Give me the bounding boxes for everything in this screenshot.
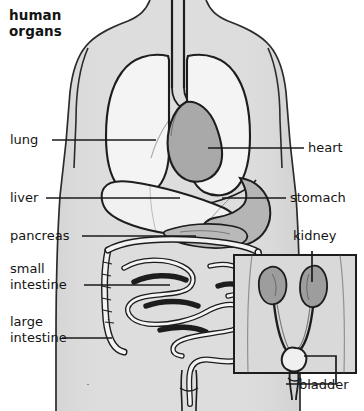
human-organs-illustration [0, 0, 364, 411]
figure-title: human organs [9, 7, 62, 39]
kidney-right-shape [300, 266, 327, 307]
bladder-shape [282, 348, 307, 372]
label-large-intestine: large intestine [10, 314, 67, 345]
label-liver: liver [10, 190, 38, 206]
label-heart: heart [308, 140, 343, 156]
label-stomach: stomach [290, 190, 346, 206]
label-small-intestine: small intestine [10, 261, 67, 292]
label-kidney: kidney [293, 228, 336, 244]
label-lung: lung [10, 132, 38, 148]
kidney-left-shape [259, 267, 287, 305]
label-pancreas: pancreas [10, 228, 69, 244]
diagram-canvas: human organs lung liver pancreas small i… [0, 0, 364, 411]
label-bladder: bladder [299, 377, 349, 393]
